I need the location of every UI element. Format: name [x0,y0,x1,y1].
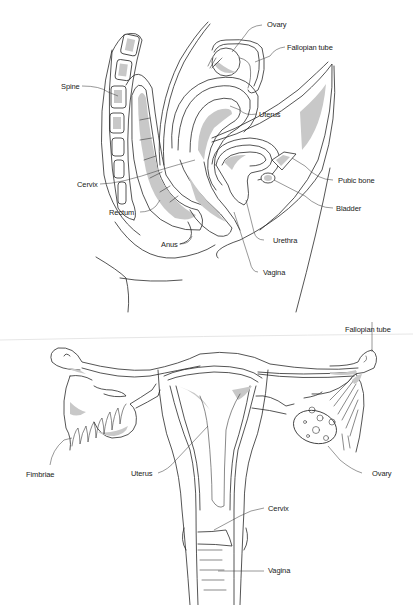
pubic-bone-shape [261,152,296,183]
right-ovary-fimbriae [252,374,364,452]
label-vagina: Vagina [263,269,285,277]
label-uterus: Uterus [131,470,153,478]
sagittal-illustration [0,0,413,320]
frontal-illustration [0,310,413,605]
label-cervix: Cervix [77,181,98,189]
label-vagina: Vagina [268,567,290,575]
label-rectum: Rectum [109,209,134,217]
leader-lines-frontal [50,322,372,571]
label-cervix: Cervix [268,505,289,513]
label-pubic-bone: Pubic bone [338,177,375,185]
frontal-view-diagram: Fallopian tube Fimbriae Uterus Ovary Cer… [0,310,413,605]
label-fimbriae: Fimbriae [26,471,54,479]
label-bladder: Bladder [336,205,361,213]
sagittal-section-diagram: Ovary Fallopian tube Spine Uterus Cervix… [0,0,413,320]
uterus-shape [172,77,259,190]
label-uterus: Uterus [259,111,281,119]
uterus-body [158,366,268,605]
label-fallopian-tube: Fallopian tube [287,44,333,52]
label-urethra: Urethra [273,237,297,245]
left-fimbriae-ovary [64,376,160,451]
label-spine: Spine [61,83,80,91]
label-fallopian-tube: Fallopian tube [345,326,391,334]
label-ovary: Ovary [372,470,392,478]
label-ovary: Ovary [267,21,287,29]
ovary-tube-shape [208,40,264,93]
bladder-shape [212,138,280,205]
spine-vertebrae [109,33,142,220]
right-fallopian-tube [258,350,377,378]
rectum-shape [126,74,203,230]
label-anus: Anus [161,241,178,249]
